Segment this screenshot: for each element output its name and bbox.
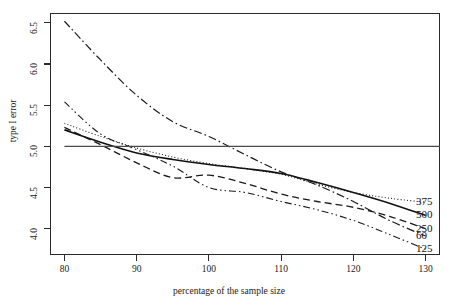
y-tick-label-5.5: 5.5	[29, 104, 39, 138]
chart-figure: type I error 4.04.55.05.56.06.5 80901001…	[0, 0, 458, 307]
x-axis-label: percentage of the sample size	[0, 286, 458, 296]
y-tick-label-6.5: 6.5	[29, 22, 39, 56]
series-line-375	[64, 123, 425, 202]
series-line-60	[64, 21, 425, 236]
x-tick-label-90: 90	[117, 264, 157, 274]
y-tick-label-4.0: 4.0	[29, 228, 39, 262]
x-tick-label-100: 100	[189, 264, 229, 274]
x-tick-mark	[208, 255, 209, 261]
legend-label-375: 375	[416, 196, 433, 207]
x-tick-label-130: 130	[406, 264, 446, 274]
x-tick-mark	[281, 255, 282, 261]
x-tick-mark	[425, 255, 426, 261]
plot-area	[50, 13, 440, 255]
series-lines	[64, 21, 425, 249]
y-tick-label-4.5: 4.5	[29, 187, 39, 221]
series-line-125	[64, 102, 425, 249]
x-tick-mark	[64, 255, 65, 261]
legend-label-500: 500	[416, 209, 433, 220]
x-tick-label-80: 80	[44, 264, 84, 274]
x-tick-label-120: 120	[333, 264, 373, 274]
y-tick-label-5.0: 5.0	[29, 145, 39, 179]
y-tick-label-6.0: 6.0	[29, 63, 39, 97]
x-tick-mark	[136, 255, 137, 261]
legend-label-60: 60	[416, 230, 427, 241]
legend-label-125: 125	[416, 243, 433, 254]
y-axis-label: type I error	[4, 0, 22, 242]
y-axis-label-text: type I error	[8, 100, 18, 143]
x-tick-mark	[353, 255, 354, 261]
x-tick-label-110: 110	[261, 264, 301, 274]
